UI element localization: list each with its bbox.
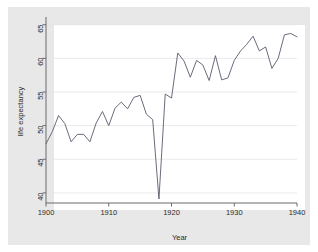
y-tick-label: 45: [36, 159, 45, 179]
y-tick-label: 50: [36, 125, 45, 145]
x-tick-label: 1900: [26, 208, 66, 217]
y-axis-title: life expectancy: [16, 72, 25, 152]
y-tick-label: 65: [36, 24, 45, 44]
x-tick-label: 1940: [277, 208, 317, 217]
y-tick-label: 55: [36, 92, 45, 112]
plot-region: [54, 25, 305, 210]
y-tick-label: 60: [36, 58, 45, 78]
x-tick-label: 1920: [152, 208, 192, 217]
chart-figure: life expectancy Year 404550556065 190019…: [0, 0, 318, 252]
x-tick-label: 1910: [89, 208, 129, 217]
plot-frame: life expectancy Year 404550556065 190019…: [8, 7, 310, 245]
x-tick-label: 1930: [214, 208, 254, 217]
x-axis-title: Year: [54, 233, 305, 242]
